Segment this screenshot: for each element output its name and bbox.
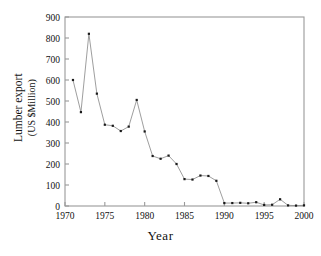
y-axis-tick-label: 500: [46, 97, 61, 107]
data-point-marker: 1977: 357: [120, 130, 122, 132]
x-axis-tick-label: 1995: [255, 211, 274, 221]
data-point-marker: 1978: 378: [128, 126, 130, 128]
data-point-marker: 2000: 3: [303, 204, 305, 206]
data-point-marker: 1984: 200: [175, 163, 177, 165]
data-point-marker: 1986: 126: [191, 178, 193, 180]
data-point-marker: 1993: 13: [247, 202, 249, 204]
data-point-marker: 1987: 145: [199, 174, 201, 176]
y-axis-tick-label: 700: [46, 55, 61, 65]
data-point-marker: 1976: 382: [112, 125, 114, 127]
y-axis-tick-label: 200: [46, 160, 61, 170]
data-point-marker: 1972: 447: [80, 111, 82, 113]
data-point-marker: 1973: 820: [88, 33, 90, 35]
x-axis-title: Year: [0, 228, 321, 244]
data-point-marker: 1997: 32: [279, 198, 281, 200]
data-point-marker: 1991: 14: [231, 202, 233, 204]
y-axis-tick-label: 100: [46, 181, 61, 191]
data-series-line: [73, 34, 304, 206]
x-axis-tick-label: 1985: [175, 211, 194, 221]
chart-figure: Lumber export (US $Million) 010020030040…: [0, 0, 321, 256]
data-point-marker: 1988: 143: [207, 175, 209, 177]
data-point-marker: 1983: 240: [167, 155, 169, 157]
data-point-marker: 1974: 535: [96, 93, 98, 95]
data-point-marker: 1994: 18: [255, 201, 257, 203]
plot-frame: [65, 17, 304, 206]
x-axis-tick-label: 1970: [56, 211, 75, 221]
data-point-marker: 1979: 505: [136, 99, 138, 101]
data-point-marker: 1992: 15: [239, 202, 241, 204]
y-axis-tick-label: 900: [46, 13, 61, 23]
data-point-marker: 1989: 120: [215, 180, 217, 182]
data-point-marker: 1982: 225: [160, 158, 162, 160]
data-point-marker: 1999: 2: [295, 204, 297, 206]
x-axis-tick-label: 1990: [215, 211, 234, 221]
y-axis-tick-label: 300: [46, 139, 61, 149]
data-point-marker: 1985: 128: [183, 178, 185, 180]
y-axis-tick-label: 800: [46, 34, 61, 44]
data-point-marker: 1996: 6: [271, 204, 273, 206]
data-point-marker: 1995: 5: [263, 204, 265, 206]
data-point-marker: 1971: 600: [72, 79, 74, 81]
data-point-marker: 1990: 14: [223, 202, 225, 204]
x-axis-tick-label: 1980: [135, 211, 154, 221]
x-axis-tick-label: 1975: [95, 211, 114, 221]
data-point-marker: 1980: 355: [144, 130, 146, 132]
y-axis-tick-label: 400: [46, 118, 61, 128]
data-point-marker: 1975: 387: [104, 124, 106, 126]
y-axis-tick-label: 600: [46, 76, 61, 86]
line-chart-plot: 0100200300400500600700800900197019751980…: [0, 0, 321, 256]
data-point-marker: 1998: 3: [287, 204, 289, 206]
data-point-marker: 1981: 238: [152, 155, 154, 157]
x-axis-tick-label: 2000: [295, 211, 314, 221]
